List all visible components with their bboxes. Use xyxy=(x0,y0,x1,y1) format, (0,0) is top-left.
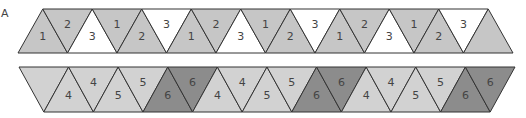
triangle-label: 2 xyxy=(287,30,294,43)
triangle-label: 6 xyxy=(338,76,345,89)
triangle-label: 5 xyxy=(140,76,147,89)
triangle-label: 5 xyxy=(115,89,122,102)
triangle-label: 1 xyxy=(411,18,418,31)
triangle-label: 4 xyxy=(214,89,221,102)
triangle-label: 2 xyxy=(435,30,442,43)
triangle-label: 4 xyxy=(388,76,395,89)
triangle-label: 6 xyxy=(487,76,494,89)
triangle-label: 3 xyxy=(237,30,244,43)
triangle-label: 4 xyxy=(239,76,246,89)
triangle-strips-diagram: 123123123123123123 445566445566445566 xyxy=(0,0,526,118)
triangle-label: 2 xyxy=(138,30,145,43)
triangle-label: 4 xyxy=(65,89,72,102)
triangle-label: 5 xyxy=(288,76,295,89)
triangle-label: 3 xyxy=(163,18,170,31)
triangle-label: 2 xyxy=(213,18,220,31)
triangle-label: 4 xyxy=(363,89,370,102)
triangle-label: 2 xyxy=(361,18,368,31)
triangle-label: 6 xyxy=(164,89,171,102)
triangle-label: 1 xyxy=(262,18,269,31)
triangle-label: 3 xyxy=(89,30,96,43)
triangle-label: 1 xyxy=(39,30,46,43)
triangle-label: 5 xyxy=(264,89,271,102)
bottom-triangle-strip: 445566445566445566 xyxy=(19,67,515,112)
triangle-label: 6 xyxy=(189,76,196,89)
triangle-label: 3 xyxy=(386,30,393,43)
triangle-label: 2 xyxy=(64,18,71,31)
triangle-label: 1 xyxy=(336,30,343,43)
triangle-label: 4 xyxy=(90,76,97,89)
triangle-label: 3 xyxy=(460,18,467,31)
triangle-label: 6 xyxy=(462,89,469,102)
triangle-label: 3 xyxy=(312,18,319,31)
triangle-label: 1 xyxy=(188,30,195,43)
triangle-label: 6 xyxy=(313,89,320,102)
triangle-label: 5 xyxy=(412,89,419,102)
triangle-label: 5 xyxy=(437,76,444,89)
triangle-label: 1 xyxy=(114,18,121,31)
top-triangle-strip: 123123123123123123 xyxy=(18,9,513,53)
